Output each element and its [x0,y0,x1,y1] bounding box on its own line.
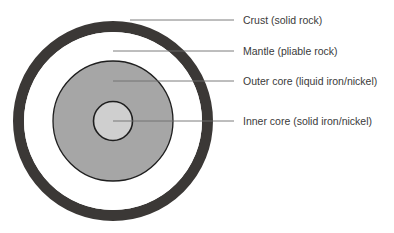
mantle-label: Mantle (pliable rock) [243,45,338,57]
outer-core-label: Outer core (liquid iron/nickel) [243,75,377,87]
crust-label: Crust (solid rock) [243,14,322,26]
inner-core-label: Inner core (solid iron/nickel) [243,115,372,127]
